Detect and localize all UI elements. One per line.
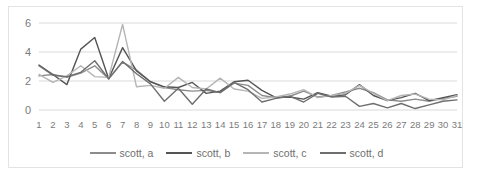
x-axis-tick-label: 10 — [159, 119, 170, 130]
chart-container: 0246123456789101112131415161718192021222… — [8, 6, 463, 168]
x-axis-tick-label: 31 — [452, 119, 463, 130]
chart-legend: scott, a scott, b scott, c scott, d — [9, 141, 464, 165]
x-axis-tick-label: 16 — [243, 119, 254, 130]
legend-item-scott-b[interactable]: scott, b — [166, 147, 230, 159]
x-axis-tick-label: 26 — [382, 119, 393, 130]
x-axis-tick-label: 27 — [396, 119, 407, 130]
line-chart-svg: 0246123456789101112131415161718192021222… — [9, 7, 464, 139]
x-axis-tick-label: 17 — [257, 119, 268, 130]
series-line-scott-d — [39, 61, 457, 109]
x-axis-tick-label: 12 — [187, 119, 198, 130]
x-axis-tick-label: 2 — [50, 119, 55, 130]
legend-label-scott-a: scott, a — [120, 147, 154, 159]
x-axis-tick-label: 9 — [148, 119, 153, 130]
x-axis-tick-label: 11 — [173, 119, 183, 130]
y-axis-tick-label: 0 — [25, 104, 31, 116]
x-axis-tick-label: 8 — [134, 119, 139, 130]
legend-swatch-scott-a — [90, 152, 116, 154]
y-axis-tick-label: 6 — [25, 17, 31, 29]
x-axis-tick-label: 15 — [229, 119, 240, 130]
legend-label-scott-b: scott, b — [196, 147, 230, 159]
x-axis-tick-label: 5 — [92, 119, 97, 130]
x-axis-tick-label: 13 — [201, 119, 212, 130]
plot-area: 0246123456789101112131415161718192021222… — [9, 7, 464, 139]
x-axis-tick-label: 4 — [78, 119, 83, 130]
x-axis-tick-label: 3 — [64, 119, 69, 130]
x-axis-tick-label: 18 — [271, 119, 282, 130]
legend-swatch-scott-c — [243, 152, 269, 154]
x-axis-tick-label: 28 — [410, 119, 421, 130]
legend-swatch-scott-d — [320, 152, 346, 154]
y-axis-tick-label: 4 — [25, 46, 31, 58]
x-axis-tick-label: 14 — [215, 119, 226, 130]
x-axis-tick-label: 21 — [312, 119, 323, 130]
legend-label-scott-c: scott, c — [273, 147, 306, 159]
x-axis-tick-label: 30 — [438, 119, 449, 130]
x-axis-tick-label: 20 — [298, 119, 309, 130]
x-axis-tick-label: 25 — [368, 119, 379, 130]
x-axis-tick-label: 23 — [340, 119, 351, 130]
legend-swatch-scott-b — [166, 152, 192, 154]
legend-item-scott-d[interactable]: scott, d — [320, 147, 384, 159]
x-axis-tick-label: 29 — [424, 119, 435, 130]
series-line-scott-a — [39, 62, 457, 101]
x-axis-tick-label: 19 — [285, 119, 296, 130]
legend-item-scott-c[interactable]: scott, c — [243, 147, 306, 159]
x-axis-tick-label: 7 — [120, 119, 125, 130]
y-axis-tick-label: 2 — [25, 75, 31, 87]
legend-item-scott-a[interactable]: scott, a — [90, 147, 154, 159]
x-axis-tick-label: 24 — [354, 119, 365, 130]
legend-label-scott-d: scott, d — [350, 147, 384, 159]
x-axis-tick-label: 1 — [36, 119, 41, 130]
x-axis-tick-label: 6 — [106, 119, 111, 130]
x-axis-tick-label: 22 — [326, 119, 337, 130]
